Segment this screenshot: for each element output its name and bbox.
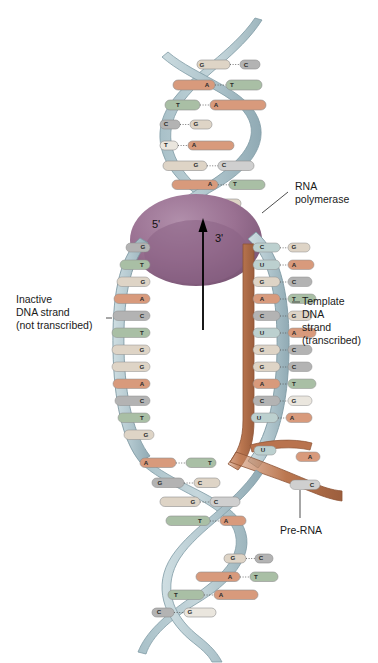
base-letter: T [230,81,234,88]
base-stub: G [124,430,154,440]
base-letter: T [292,295,296,302]
base-letter: T [208,459,212,466]
base-stub: G [112,345,150,355]
base-letter: C [292,278,297,285]
base-letter: T [140,329,144,336]
base-letter: T [198,517,202,524]
base-letter: G [260,363,265,370]
base-stub: G [112,362,150,372]
base-block-left [163,161,207,171]
base-stub: A [113,379,150,389]
base-letter: C [222,161,227,168]
base-letter: G [231,554,236,561]
rna-base-block [253,396,280,406]
base-letter: C [140,397,145,404]
rna-base-block [253,243,280,252]
base-stub: T [112,328,150,338]
rna-base-block [253,277,280,287]
base-letter: G [140,363,145,370]
diagram-canvas: G C A T T A [0,0,378,663]
base-letter: C [260,243,265,250]
base-pair-rung: A T [196,572,278,582]
base-stub: G [126,243,150,252]
three-prime-label: 3' [215,232,223,244]
base-letter: T [233,180,237,187]
rna-polymerase-label-line1: RNA [295,180,317,192]
rna-polymerase-body [130,194,262,286]
base-letter: T [292,380,296,387]
template-strand-label-line1: Template [302,295,345,307]
base-stub: T [118,413,150,423]
base-letter: C [292,363,297,370]
base-letter: A [205,81,210,88]
base-letter: C [164,120,169,127]
base-letter: T [140,414,144,421]
inactive-strand-label-line1: Inactive [16,293,52,305]
base-letter: A [224,517,229,524]
base-letter: U [261,446,266,453]
base-letter: T [254,573,258,580]
rna-base-block [253,345,280,355]
rna-base-block [253,362,280,372]
base-letter: A [292,329,297,336]
five-prime-label: 5' [152,218,160,230]
base-letter: C [140,312,145,319]
base-stub: T [120,260,150,270]
base-stub: A [114,294,150,304]
base-letter: A [140,295,145,302]
base-letter: T [164,141,168,148]
base-letter: C [214,498,219,505]
base-letter: T [176,101,180,108]
base-letter: G [200,61,205,68]
pre-rna-base-stub: A [296,452,320,462]
template-strand-label-line2: DNA [302,308,324,320]
base-letter: G [292,243,297,250]
base-letter: C [259,554,264,561]
base-letter: A [208,180,213,187]
rna-base-block [253,379,280,389]
base-letter: G [140,346,145,353]
rna-base-block [251,413,278,423]
inactive-strand-label-line2: DNA strand [16,306,70,318]
base-block-right [210,100,266,110]
pre-rna-label: Pre-RNA [280,524,322,536]
base-letter: A [290,414,295,421]
base-letter: A [308,453,313,460]
rna-base-block [253,328,280,338]
base-letter: A [140,380,145,387]
base-letter: G [194,120,199,127]
base-letter: T [174,591,178,598]
base-pair-rung: T A [160,141,234,150]
template-strand-label-line3: strand [302,321,331,333]
base-letter: G [260,278,265,285]
base-block-left [160,141,178,150]
base-letter: C [244,61,249,68]
base-letter: U [257,414,262,421]
template-strand-label-line4: (transcribed) [302,334,361,346]
pre-rna-base-stub: U [254,446,276,455]
base-letter: A [144,459,149,466]
base-letter: U [260,329,265,336]
base-letter: C [157,608,162,615]
base-letter: G [141,278,146,285]
base-letter: U [260,261,265,268]
base-letter: G [292,312,297,319]
base-letter: A [292,261,297,268]
base-letter: A [192,141,197,148]
rna-base-block [253,260,280,270]
rna-base-block [253,294,280,304]
base-pair-rung: T A [165,100,266,110]
base-pair-rung: T A [166,516,246,526]
base-stub: C [113,311,150,321]
base-letter: C [260,312,265,319]
base-letter: C [260,397,265,404]
base-letter: G [141,243,146,250]
base-stub: G [117,277,150,287]
base-block-left [165,100,200,110]
base-letter: A [260,295,265,302]
base-letter: T [140,261,144,268]
base-letter: G [191,498,196,505]
base-letter: A [228,573,233,580]
base-letter: G [144,431,149,438]
base-letter: A [260,380,265,387]
